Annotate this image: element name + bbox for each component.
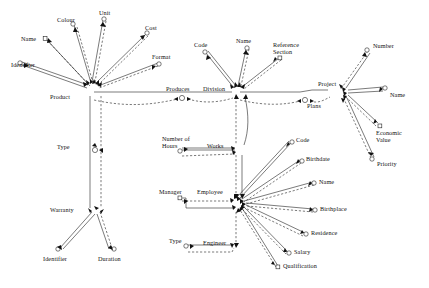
attr-label-identifier-product: Identifier <box>11 61 35 68</box>
division-works-edges <box>234 94 248 145</box>
attr-node-format <box>157 62 161 66</box>
attr-label-cost: Cost <box>145 24 157 31</box>
attr-label-name-employee: Name <box>319 178 334 185</box>
attr-label-salary: Salary <box>294 248 310 255</box>
attr-label-identifier-warranty: Identifier <box>43 255 67 262</box>
attr-label-colour: Colour <box>57 16 75 23</box>
relationship-label-engineer: Engineer <box>203 239 226 246</box>
relationship-label-works: Works <box>207 142 224 149</box>
entity-label-division: Division <box>203 85 225 92</box>
entity-label-employee: Employee <box>197 188 223 195</box>
works-employee-edges <box>234 155 245 199</box>
attr-node-code-employee <box>290 140 294 144</box>
attr-node-number-of-hours <box>178 149 182 153</box>
attr-label-code-employee: Code <box>296 136 309 143</box>
attr-label-number-project: Number <box>373 42 394 49</box>
produces-relationship-node <box>179 95 184 100</box>
attr-node-reference-section <box>278 56 282 60</box>
attr-node-name-project <box>383 86 387 90</box>
attr-node-name-employee <box>312 181 316 185</box>
manager-relationship-node <box>178 196 182 200</box>
attr-node-code-division <box>203 50 207 54</box>
relationship-label-type-product: Type <box>57 143 70 150</box>
attr-label-unit: Unit <box>99 9 110 16</box>
attr-node-cost <box>145 31 149 35</box>
type-product-node <box>92 147 97 152</box>
attr-label-residence: Residence <box>311 229 337 236</box>
attr-node-salary <box>287 251 291 255</box>
attr-label-reference-section: Reference Section <box>273 41 299 55</box>
attr-node-economic-value <box>378 124 382 128</box>
attr-node-name-division <box>245 46 249 50</box>
entity-label-warranty: Warranty <box>50 206 74 213</box>
attr-node-name-product <box>43 37 47 41</box>
attr-label-code-division: Code <box>194 41 207 48</box>
attr-node-priority <box>370 157 374 161</box>
attr-label-priority: Priority <box>377 160 397 167</box>
produces-relationship-edges <box>94 92 233 105</box>
attr-label-economic-value: Economic Value <box>376 129 402 143</box>
attr-node-qualification <box>276 265 280 269</box>
product-warranty-generalization <box>90 96 103 208</box>
attr-label-format: Format <box>152 53 170 60</box>
attr-label-duration: Duration <box>98 255 121 262</box>
division-attribute-edges <box>203 46 282 89</box>
entity-label-product: Product <box>50 93 70 100</box>
attr-label-birthdate: Birthdate <box>306 155 330 162</box>
relationship-label-type-engineer: Type <box>169 237 182 244</box>
project-attribute-edges <box>339 48 387 161</box>
attr-node-birthdate <box>300 159 304 163</box>
relationship-label-manager: Manager <box>159 188 182 195</box>
relationship-label-number-of-hours: Number of Hours <box>162 135 190 149</box>
product-attribute-edges <box>22 20 158 88</box>
attr-node-unit <box>102 17 106 21</box>
attr-label-name-project: Name <box>390 91 405 98</box>
type-engineer-node <box>184 244 188 248</box>
er-diagram-canvas: Identifier Name Colour Unit Cost Format … <box>0 0 429 288</box>
attr-node-number-project <box>365 48 369 52</box>
attr-label-qualification: Qualification <box>283 262 317 269</box>
attr-label-name-division: Name <box>236 37 251 44</box>
attr-label-name-product: Name <box>21 35 36 42</box>
entity-label-project: Project <box>318 80 336 87</box>
relationship-label-plans: Plans <box>307 102 321 109</box>
attr-node-residence <box>304 232 308 236</box>
attr-label-birthplace: Birthplace <box>320 205 347 212</box>
relationship-label-produces: Produces <box>166 85 189 92</box>
manager-relationship-edges <box>178 196 236 210</box>
attr-node-birthplace <box>313 208 317 212</box>
product-attribute-markers <box>18 17 161 87</box>
